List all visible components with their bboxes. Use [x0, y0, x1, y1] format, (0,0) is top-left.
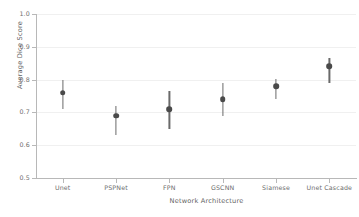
- x-tick-mark-siamese: [276, 179, 277, 183]
- data-point-fpn: [167, 106, 173, 112]
- error-bar-unet-cascade: [329, 58, 330, 83]
- x-tick-label-gscnn: GSCNN: [211, 184, 234, 191]
- y-tick-mark-0.9: [32, 47, 36, 48]
- x-tick-label-unet: Unet: [55, 184, 71, 191]
- x-tick-mark-gscnn: [223, 179, 224, 183]
- y-tick-label-0.5: 0.5: [2, 174, 30, 181]
- x-tick-mark-pspnet: [116, 179, 117, 183]
- x-axis-spine: [36, 178, 357, 179]
- data-point-gscnn: [220, 96, 226, 102]
- y-tick-mark-0.8: [32, 80, 36, 81]
- y-axis-title: Average Dice Score: [16, 0, 24, 115]
- x-tick-label-unet-cascade: Unet Cascade: [307, 184, 352, 191]
- y-tick-mark-0.7: [32, 112, 36, 113]
- data-point-unet-cascade: [327, 64, 333, 70]
- y-tick-mark-0.5: [32, 178, 36, 179]
- gridline-y-0.9: [36, 47, 356, 48]
- x-tick-label-pspnet: PSPNet: [104, 184, 128, 191]
- gridline-y-0.6: [36, 145, 356, 146]
- data-point-unet: [60, 90, 66, 96]
- data-point-pspnet: [113, 113, 119, 119]
- gridline-y-0.8: [36, 80, 356, 81]
- x-tick-label-siamese: Siamese: [262, 184, 290, 191]
- y-tick-mark-0.6: [32, 145, 36, 146]
- y-axis-spine: [36, 14, 37, 179]
- error-bar-pspnet: [115, 106, 116, 136]
- gridline-y-1.0: [36, 14, 356, 15]
- x-axis-title-text: Network Architecture: [170, 197, 244, 205]
- y-tick-mark-1.0: [32, 14, 36, 15]
- x-tick-mark-unet-cascade: [329, 179, 330, 183]
- gridline-y-0.7: [36, 112, 356, 113]
- x-axis-title: Network Architecture: [0, 197, 359, 205]
- data-point-siamese: [273, 83, 279, 89]
- errorbar-chart-figure: 0.50.60.70.80.91.0 UnetPSPNetFPNGSCNNSia…: [0, 0, 359, 217]
- x-tick-mark-fpn: [169, 179, 170, 183]
- x-tick-mark-unet: [63, 179, 64, 183]
- y-tick-label-0.6: 0.6: [2, 141, 30, 148]
- plot-area: [36, 14, 356, 178]
- x-tick-label-fpn: FPN: [163, 184, 176, 191]
